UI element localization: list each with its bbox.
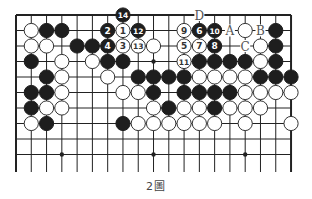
black-stone (24, 85, 38, 99)
black-stone (116, 116, 130, 130)
white-stone (238, 70, 252, 84)
black-stone (269, 70, 283, 84)
white-stone (208, 70, 222, 84)
white-stone (238, 101, 252, 115)
white-stone (192, 70, 206, 84)
move-number: 14 (118, 11, 128, 20)
move-number: 12 (133, 27, 143, 36)
white-stone (253, 54, 267, 68)
white-stone (269, 85, 283, 99)
white-stone (39, 101, 53, 115)
white-stone (85, 54, 99, 68)
white-stone (238, 116, 252, 130)
move-number: 9 (181, 26, 187, 36)
black-stone (116, 54, 130, 68)
black-stone (146, 85, 160, 99)
white-stone (24, 23, 38, 37)
black-stone (192, 85, 206, 99)
white-stone (192, 116, 206, 130)
black-stone (39, 23, 53, 37)
diagram-caption: 2圖 (0, 177, 312, 193)
letter-marker-d: D (195, 9, 205, 23)
white-stone (55, 85, 69, 99)
black-stone (284, 70, 298, 84)
black-stone (101, 54, 115, 68)
move-number: 3 (120, 41, 126, 51)
black-stone (269, 23, 283, 37)
black-stone (70, 39, 84, 53)
black-stone (39, 116, 53, 130)
white-stone (162, 116, 176, 130)
black-stone (24, 54, 38, 68)
black-stone (85, 39, 99, 53)
black-stone (208, 101, 222, 115)
white-stone (238, 85, 252, 99)
black-stone (238, 54, 252, 68)
black-stone (39, 85, 53, 99)
letter-marker-b: B (256, 24, 265, 38)
white-stone (55, 54, 69, 68)
black-stone (162, 101, 176, 115)
white-stone (146, 116, 160, 130)
white-stone (39, 39, 53, 53)
black-stone (269, 39, 283, 53)
move-number: 1 (120, 26, 126, 36)
black-stone (55, 23, 69, 37)
move-number: 10 (209, 27, 219, 36)
star-point (151, 152, 155, 156)
black-stone (208, 54, 222, 68)
black-stone (208, 85, 222, 99)
white-stone (253, 85, 267, 99)
move-number: 2 (105, 26, 111, 36)
black-stone (269, 54, 283, 68)
star-point (243, 152, 247, 156)
white-stone (177, 101, 191, 115)
move-number: 8 (212, 41, 218, 51)
white-stone (284, 116, 298, 130)
black-stone (253, 70, 267, 84)
white-stone (24, 116, 38, 130)
black-stone (146, 70, 160, 84)
white-stone (238, 23, 252, 37)
white-stone (55, 70, 69, 84)
white-stone (24, 39, 38, 53)
black-stone (223, 54, 237, 68)
white-stone (253, 101, 267, 115)
white-stone (223, 101, 237, 115)
white-stone (253, 39, 267, 53)
star-point (151, 59, 155, 63)
white-stone (131, 85, 145, 99)
letter-marker-c: C (241, 40, 250, 54)
white-stone (208, 116, 222, 130)
move-number: 5 (181, 41, 187, 51)
move-number: 4 (105, 41, 111, 51)
move-number: 13 (133, 42, 143, 51)
white-stone (284, 85, 298, 99)
black-stone (162, 70, 176, 84)
move-number: 7 (196, 41, 202, 51)
black-stone (39, 70, 53, 84)
move-number: 11 (179, 58, 189, 67)
white-stone (146, 101, 160, 115)
black-stone (24, 101, 38, 115)
white-stone (131, 116, 145, 130)
black-stone (223, 85, 237, 99)
white-stone (146, 39, 160, 53)
go-board-diagram: DABC 1421129610431357811 (0, 0, 312, 199)
white-stone (101, 70, 115, 84)
star-point (60, 152, 64, 156)
move-number: 6 (196, 26, 202, 36)
black-stone (177, 70, 191, 84)
white-stone (116, 85, 130, 99)
white-stone (223, 70, 237, 84)
letter-marker-a: A (225, 24, 235, 38)
black-stone (131, 70, 145, 84)
black-stone (177, 85, 191, 99)
white-stone (177, 116, 191, 130)
white-stone (192, 101, 206, 115)
black-stone (192, 54, 206, 68)
white-stone (55, 101, 69, 115)
